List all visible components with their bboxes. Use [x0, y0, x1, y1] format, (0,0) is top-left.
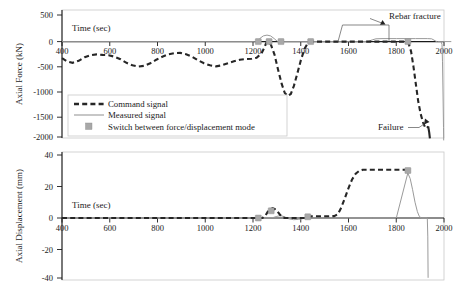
- bottom-x-tick-600: 600: [103, 223, 116, 233]
- top-y-tick-0: 0: [49, 37, 53, 47]
- switch-marker: [405, 168, 411, 174]
- top-x-tick-400: 400: [56, 46, 69, 56]
- bottom-x-tick-400: 400: [56, 223, 69, 233]
- switch-marker: [278, 39, 284, 45]
- top-y-tick-minus2000: -2000: [33, 132, 53, 142]
- top-x-tick-600: 600: [103, 46, 116, 56]
- bottom-y-ticks: [57, 155, 62, 278]
- top-x-tick-1600: 1600: [340, 46, 357, 56]
- failure-arrowhead: [424, 119, 430, 125]
- bottom-y-tick-minus20: -20: [42, 245, 53, 255]
- bottom-x-tick-1200: 1200: [245, 223, 262, 233]
- failure-annotation: Failure: [378, 119, 430, 133]
- bottom-x-tick-1600: 1600: [340, 223, 357, 233]
- dual-chart-svg: 500 0 -500 -1000 -1500 -2000 Axial Force…: [0, 0, 469, 289]
- failure-label: Failure: [378, 122, 404, 132]
- top-command-failure-hook: [428, 126, 430, 138]
- switch-marker: [305, 214, 311, 220]
- legend-marker-switch-mode: [86, 123, 93, 130]
- top-y-axis-title: Axial Force (kN): [14, 43, 24, 105]
- bottom-x-tick-1800: 1800: [388, 223, 405, 233]
- top-x-tick-1200: 1200: [245, 46, 262, 56]
- bottom-y-axis-title: Axial Displacement (mm): [14, 169, 24, 263]
- rebar-fracture-label: Rebar fracture: [389, 11, 441, 21]
- bottom-x-axis-title: Time (sec): [72, 200, 110, 210]
- switch-marker: [255, 39, 261, 45]
- top-y-ticks: [57, 15, 62, 137]
- top-x-tick-2000: 2000: [436, 46, 453, 56]
- bottom-x-tick-1000: 1000: [197, 223, 214, 233]
- top-y-tick-minus1500: -1500: [33, 112, 53, 122]
- bottom-y-tick-0: 0: [49, 213, 53, 223]
- top-x-axis-title: Time (sec): [72, 23, 110, 33]
- bottom-x-tick-1400: 1400: [292, 223, 309, 233]
- legend-label-measured-signal: Measured signal: [108, 110, 166, 120]
- top-x-tick-1000: 1000: [197, 46, 214, 56]
- bottom-command-signal-path: [62, 170, 409, 218]
- top-chart-group: 500 0 -500 -1000 -1500 -2000 Axial Force…: [14, 10, 453, 142]
- switch-marker: [405, 39, 411, 45]
- bottom-y-tick-20: 20: [45, 182, 54, 192]
- top-x-tick-800: 800: [151, 46, 164, 56]
- bottom-x-tick-800: 800: [151, 223, 164, 233]
- legend-label-command-signal: Command signal: [108, 99, 168, 109]
- figure-container: 500 0 -500 -1000 -1500 -2000 Axial Force…: [0, 0, 469, 289]
- switch-marker: [266, 39, 272, 45]
- legend-label-switch-mode: Switch between force/displacement mode: [108, 122, 255, 132]
- bottom-y-tick-minus40: -40: [42, 273, 53, 283]
- bottom-y-tick-40: 40: [45, 150, 54, 160]
- top-y-tick-minus1000: -1000: [33, 87, 53, 97]
- bottom-chart-group: 40 20 0 -20 -40 Axial Displacement (mm) …: [14, 150, 453, 283]
- bottom-plot-frame: [62, 152, 444, 280]
- legend: Command signal Measured signal Switch be…: [68, 95, 287, 136]
- top-y-tick-500: 500: [40, 10, 53, 20]
- top-measured-failure-drop: [441, 42, 444, 141]
- top-x-tick-1800: 1800: [388, 46, 405, 56]
- switch-marker: [255, 215, 261, 221]
- switch-marker: [268, 208, 274, 214]
- bottom-x-tick-2000: 2000: [436, 223, 453, 233]
- top-y-tick-minus500: -500: [37, 62, 53, 72]
- switch-marker: [308, 39, 314, 45]
- rebar-fracture-annotation: Rebar fracture: [338, 11, 441, 42]
